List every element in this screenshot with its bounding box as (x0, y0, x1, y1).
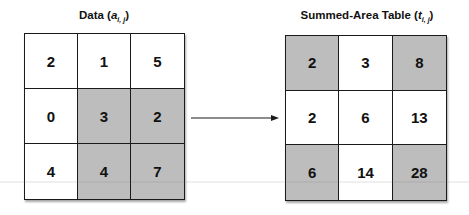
sat-cell-1-2: 13 (393, 91, 446, 146)
data-cell-2-1: 4 (78, 144, 131, 199)
data-cell-1-2: 2 (131, 89, 184, 144)
title-text: Summed-Area Table ( (301, 9, 418, 21)
sat-cell-1-0: 2 (286, 91, 339, 146)
data-grid: 2 1 5 0 3 2 4 4 7 (24, 33, 185, 200)
sat-cell-0-2: 8 (393, 36, 446, 91)
arrow-right-icon (190, 112, 280, 124)
data-cell-1-0: 0 (25, 89, 78, 144)
sat-cell-2-0: 6 (286, 145, 339, 200)
data-cell-0-2: 5 (131, 34, 184, 89)
summed-area-table-title: Summed-Area Table (ti, j) (272, 9, 462, 23)
sat-cell-0-0: 2 (286, 36, 339, 91)
data-grid-title: Data (ai, j) (24, 9, 184, 23)
title-subscript: i, j (422, 16, 430, 23)
sat-cell-0-1: 3 (339, 36, 392, 91)
sat-cell-1-1: 6 (339, 91, 392, 146)
title-subscript: i, j (117, 16, 125, 23)
data-cell-0-0: 2 (25, 34, 78, 89)
data-cell-2-0: 4 (25, 144, 78, 199)
title-suffix: ) (430, 9, 434, 21)
sat-cell-2-2: 28 (393, 145, 446, 200)
sat-cell-2-1: 14 (339, 145, 392, 200)
summed-area-grid: 2 3 8 2 6 13 6 14 28 (285, 35, 447, 201)
title-suffix: ) (125, 9, 129, 21)
data-cell-0-1: 1 (78, 34, 131, 89)
title-text: Data ( (79, 9, 111, 21)
data-cell-2-2: 7 (131, 144, 184, 199)
data-cell-1-1: 3 (78, 89, 131, 144)
